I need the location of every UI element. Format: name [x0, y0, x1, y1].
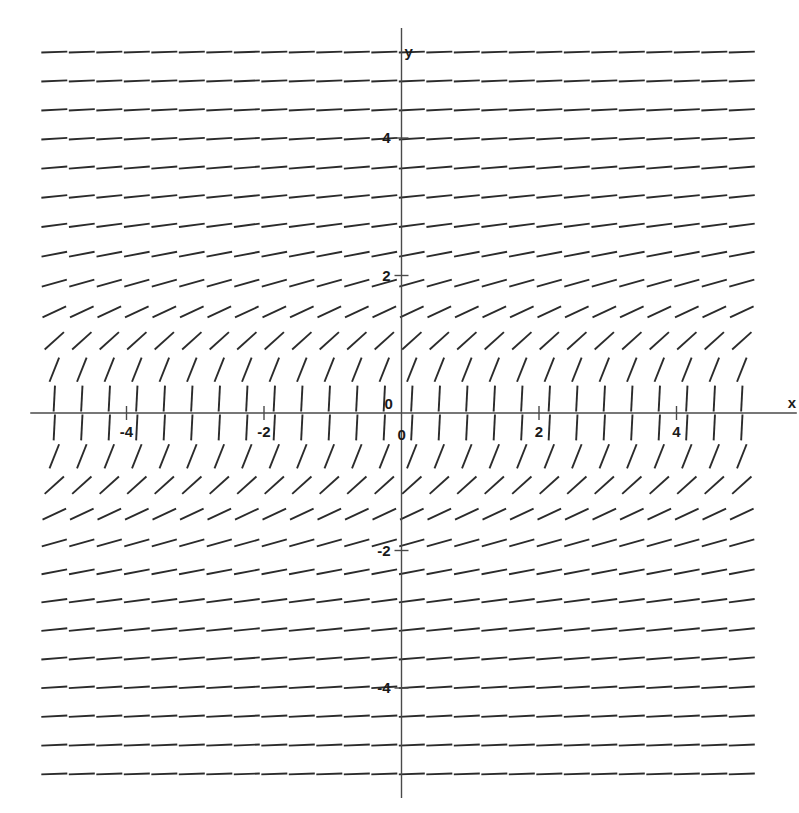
slope-segment — [96, 773, 122, 774]
slope-segment — [81, 386, 82, 412]
slope-segment — [210, 476, 229, 493]
slope-segment — [619, 80, 645, 81]
slope-segment — [400, 509, 424, 520]
slope-segment — [729, 687, 755, 689]
slope-segment — [124, 195, 150, 198]
slope-segment — [576, 414, 577, 440]
slope-segment — [344, 280, 369, 287]
slope-segment — [97, 280, 122, 287]
slope-segment — [179, 195, 205, 198]
slope-segment — [701, 628, 727, 631]
slope-segment — [399, 224, 425, 227]
slope-segment — [372, 252, 398, 257]
slope-segment — [265, 332, 284, 349]
slope-segment — [564, 280, 589, 287]
slope-segment — [206, 657, 232, 659]
slope-segment — [344, 252, 370, 257]
slope-segment — [426, 657, 452, 659]
slope-segment — [261, 628, 287, 631]
slope-segment — [371, 80, 397, 81]
slope-segment — [729, 80, 755, 81]
slope-segment — [289, 167, 315, 169]
slope-segment — [42, 280, 67, 287]
slope-segment — [151, 657, 177, 659]
slope-segment — [399, 716, 425, 717]
slope-segment — [316, 52, 342, 53]
slope-segment — [426, 745, 452, 746]
slope-segment — [206, 628, 232, 631]
slope-segment — [454, 716, 480, 717]
slope-segment — [732, 332, 751, 349]
slope-segment — [124, 687, 150, 689]
slope-segment — [234, 138, 260, 140]
slope-segment — [454, 252, 480, 257]
slope-segment — [650, 332, 669, 349]
slope-segment — [619, 252, 645, 257]
slope-segment — [402, 476, 421, 493]
slope-segment — [674, 539, 699, 546]
slope-segment — [677, 332, 696, 349]
slope-segment — [481, 628, 507, 631]
slope-segment — [509, 599, 535, 602]
slope-segment — [208, 509, 232, 520]
slope-segment — [399, 745, 425, 746]
slope-segment — [482, 280, 507, 287]
slope-segment — [207, 252, 233, 257]
slope-segment — [627, 444, 637, 468]
slope-segment — [124, 167, 150, 169]
slope-segment — [96, 80, 122, 81]
slope-segment — [69, 773, 95, 774]
slope-segment — [316, 599, 342, 602]
slope-segment — [729, 109, 755, 110]
slope-segment — [42, 539, 67, 546]
slope-segment — [344, 80, 370, 81]
slope-segment — [375, 476, 394, 493]
slope-segment — [316, 195, 342, 198]
slope-segment — [96, 687, 122, 689]
slope-segment — [701, 52, 727, 53]
slope-segment — [619, 539, 644, 546]
slope-segment — [371, 745, 397, 746]
slope-segment — [702, 252, 728, 257]
slope-segment — [42, 252, 68, 257]
slope-segment — [316, 109, 342, 110]
slope-segment — [536, 224, 562, 227]
slope-segment — [96, 167, 122, 169]
slope-segment — [124, 657, 150, 659]
slope-segment — [454, 687, 480, 689]
slope-segment — [426, 628, 452, 631]
slope-segment — [604, 386, 605, 412]
slope-segment — [705, 332, 724, 349]
slope-segment — [270, 444, 280, 468]
slope-segment — [152, 252, 178, 257]
slope-segment — [481, 657, 507, 659]
slope-segment — [289, 569, 315, 574]
slope-segment — [454, 628, 480, 631]
slope-segment — [701, 109, 727, 110]
slope-segment — [289, 195, 315, 198]
slope-segment — [151, 52, 177, 53]
slope-segment — [41, 628, 67, 631]
slope-segment — [427, 280, 452, 287]
slope-segment — [318, 306, 342, 317]
slope-segment — [462, 444, 472, 468]
slope-segment — [69, 745, 95, 746]
slope-segment — [297, 444, 307, 468]
slope-segment — [454, 745, 480, 746]
slope-segment — [565, 509, 589, 520]
slope-segment — [344, 745, 370, 746]
slope-segment — [96, 195, 122, 198]
slope-segment — [289, 280, 314, 287]
slope-segment — [70, 509, 94, 520]
slope-segment — [371, 109, 397, 110]
slope-segment — [265, 476, 284, 493]
slope-segment — [490, 358, 500, 382]
slope-segment — [620, 509, 644, 520]
slope-segment — [81, 414, 82, 440]
slope-segment — [655, 444, 665, 468]
slope-segment — [549, 414, 550, 440]
slope-segment — [646, 195, 672, 198]
slope-segment — [714, 386, 715, 412]
slope-segment — [591, 716, 617, 717]
slope-segment — [564, 773, 590, 774]
